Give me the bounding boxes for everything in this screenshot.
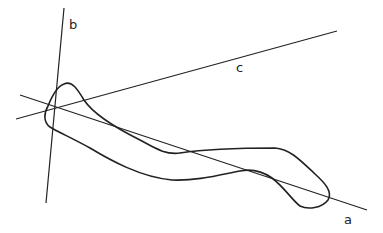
diagram-canvas: b c a: [0, 0, 383, 233]
label-c: c: [236, 60, 243, 75]
label-a: a: [344, 212, 352, 227]
line-a: [20, 95, 367, 210]
closed-curve-shape: [45, 83, 330, 208]
label-b: b: [69, 17, 77, 32]
line-c: [16, 31, 337, 119]
